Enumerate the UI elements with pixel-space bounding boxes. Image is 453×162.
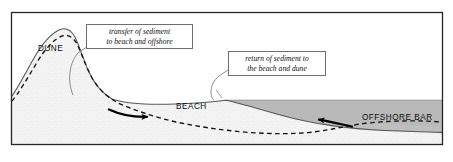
callout-return-line-1: return of sediment to xyxy=(245,54,309,63)
diagram-body xyxy=(12,13,442,144)
profile-diagram-canvas xyxy=(0,0,453,162)
callout-return-of-sediment: return of sediment to the beach and dune xyxy=(228,51,326,76)
map-label-offshore-bar: OFFSHORE BAR xyxy=(362,113,433,122)
map-label-beach: BEACH xyxy=(176,102,207,111)
callout-transfer-line-1: transfer of sediment xyxy=(109,27,170,36)
callout-return-line-2: the beach and dune xyxy=(247,64,307,73)
map-label-dune: DUNE xyxy=(38,44,63,53)
callout-transfer-line-2: to beach and offshore xyxy=(106,37,172,46)
callout-transfer-of-sediment: transfer of sediment to beach and offsho… xyxy=(86,24,193,49)
coastal-profile-figure: DUNE BEACH OFFSHORE BAR transfer of sedi… xyxy=(0,0,453,162)
